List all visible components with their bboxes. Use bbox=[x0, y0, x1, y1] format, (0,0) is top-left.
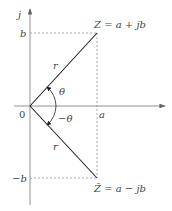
upper-magnitude-label: r bbox=[53, 60, 59, 71]
vertical-axis-label: j bbox=[16, 9, 21, 20]
lower-magnitude-label: r bbox=[53, 141, 59, 152]
angle-arc-negative bbox=[47, 106, 56, 125]
x-tick-label: a bbox=[99, 109, 105, 120]
neg-theta-label: −θ bbox=[58, 113, 72, 124]
angle-arc-positive bbox=[47, 87, 56, 106]
theta-label: θ bbox=[59, 86, 65, 97]
z-point-label: Z = a + jb bbox=[93, 19, 146, 30]
y-pos-tick-label: b bbox=[20, 28, 26, 39]
complex-plane-diagram: j b 0 a −b Z = a + jb Z̄ = a − jb r r θ … bbox=[0, 0, 172, 211]
y-neg-tick-label: −b bbox=[12, 173, 27, 184]
zbar-point-label: Z̄ = a − jb bbox=[93, 183, 146, 194]
origin-label: 0 bbox=[19, 109, 25, 120]
